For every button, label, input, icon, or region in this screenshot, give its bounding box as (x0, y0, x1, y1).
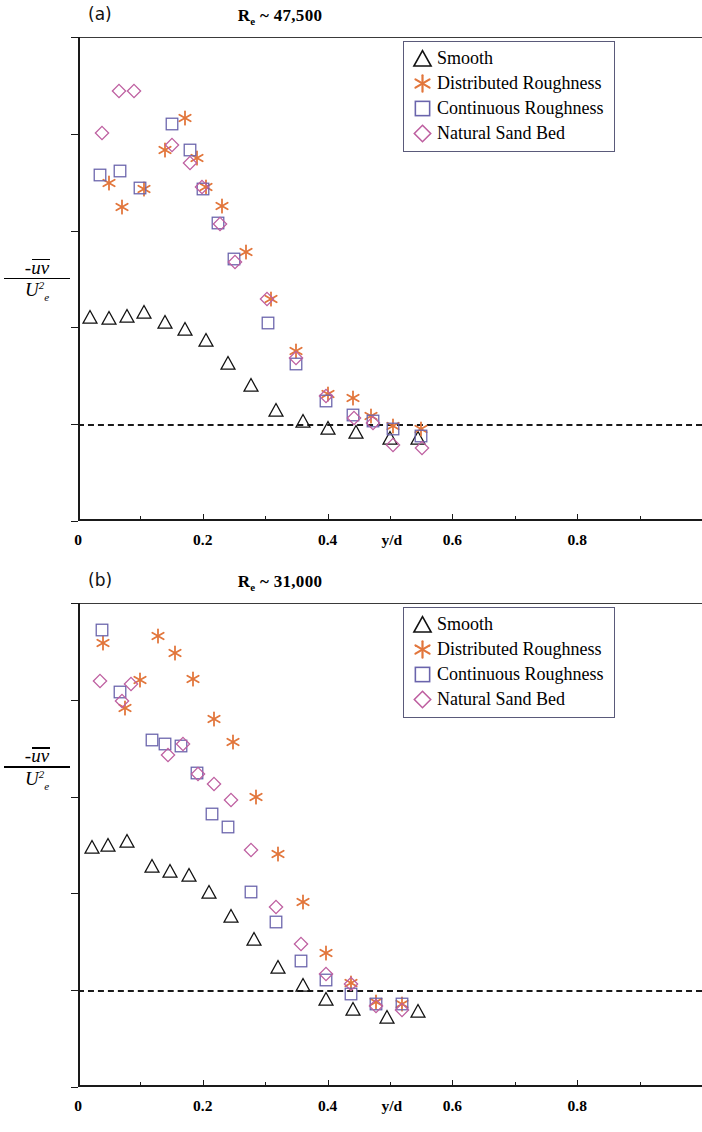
legend-item[interactable]: Smooth (412, 612, 604, 637)
y-axis-denominator-base: U (25, 280, 39, 301)
triangle-marker (135, 303, 152, 320)
title-rest: ~ 47,500 (255, 6, 322, 25)
square-marker (293, 953, 310, 970)
x-axis-tick (78, 1080, 79, 1087)
legend-item[interactable]: Natural Sand Bed (412, 687, 604, 712)
zero-reference-line (78, 990, 702, 992)
triangle-marker (294, 977, 311, 994)
triangle-marker (201, 884, 218, 901)
diamond-marker (243, 841, 260, 858)
x-axis-minor-tick (140, 516, 141, 521)
diamond-marker (364, 415, 381, 432)
asterisk-marker (294, 894, 311, 911)
triangle-marker (99, 837, 116, 854)
diamond-marker (163, 137, 180, 154)
asterisk-marker (206, 711, 223, 728)
y-axis-title: -uvU2e (4, 746, 70, 792)
triangle-marker (412, 614, 434, 636)
x-axis-minor-tick (140, 1082, 141, 1087)
diamond-marker (193, 179, 210, 196)
x-axis-minor-tick (265, 516, 266, 521)
triangle-marker (83, 838, 100, 855)
triangle-marker (177, 321, 194, 338)
axis-line-left (78, 603, 80, 1087)
legend-item[interactable]: Continuous Roughness (412, 662, 604, 687)
diamond-marker (288, 350, 305, 367)
triangle-marker (319, 420, 336, 437)
legend-item[interactable]: Natural Sand Bed (412, 121, 604, 146)
chart-legend: Smooth Distributed Roughness Continuous … (403, 607, 615, 718)
diamond-marker (212, 215, 229, 232)
legend-item[interactable]: Distributed Roughness (412, 71, 604, 96)
triangle-marker (245, 930, 262, 947)
asterisk-marker (224, 734, 241, 751)
triangle-marker (101, 309, 118, 326)
triangle-marker (197, 331, 214, 348)
diamond-marker (412, 689, 434, 711)
legend-item-label: Natural Sand Bed (434, 123, 565, 144)
diamond-marker (206, 776, 223, 793)
y-axis-denominator-base: U (25, 768, 39, 789)
x-axis-tick-label: 0.2 (193, 1097, 212, 1115)
title-prefix: R (238, 6, 251, 25)
y-axis-denominator-subscript: e (44, 780, 49, 792)
asterisk-marker (344, 390, 361, 407)
diamond-marker (227, 253, 244, 270)
y-axis-tick (71, 521, 78, 522)
x-axis-tick-label: 0.2 (193, 531, 212, 549)
triangle-marker (219, 355, 236, 372)
y-axis-tick (71, 1087, 78, 1088)
square-marker (385, 421, 402, 438)
x-axis-minor-tick (640, 1082, 641, 1087)
figure-root: (a)Re ~ 47,500-0.00100.0010.0020.0030.00… (0, 0, 702, 1132)
diamond-marker (91, 673, 108, 690)
asterisk-marker (412, 73, 434, 95)
y-axis-tick (71, 700, 78, 701)
asterisk-marker (185, 670, 202, 687)
x-axis-title: y/d (382, 531, 403, 549)
x-axis-tick-label: 0 (74, 531, 82, 549)
x-axis-tick (577, 514, 578, 521)
square-marker (243, 884, 260, 901)
square-marker (260, 314, 277, 331)
legend-item[interactable]: Distributed Roughness (412, 637, 604, 662)
y-axis-denominator: U2e (23, 769, 51, 792)
y-axis-denominator-exponent: 2 (39, 768, 45, 780)
title-rest: ~ 31,000 (255, 572, 322, 591)
diamond-marker (93, 124, 110, 141)
diamond-marker (394, 1001, 411, 1018)
y-axis-tick (71, 893, 78, 894)
x-axis-tick (577, 1080, 578, 1087)
asterisk-marker (247, 788, 264, 805)
y-axis-tick (71, 231, 78, 232)
axis-line-top (78, 37, 702, 38)
legend-item[interactable]: Continuous Roughness (412, 96, 604, 121)
chart-title: Re ~ 31,000 (0, 572, 560, 593)
asterisk-marker (318, 945, 335, 962)
legend-item[interactable]: Smooth (412, 46, 604, 71)
diamond-marker (174, 736, 191, 753)
x-axis-tick-label: 0.6 (443, 531, 462, 549)
asterisk-marker (113, 199, 130, 216)
x-axis-minor-tick (390, 516, 391, 521)
square-marker (204, 806, 221, 823)
triangle-marker (157, 313, 174, 330)
x-axis-tick (452, 1080, 453, 1087)
legend-item-label: Natural Sand Bed (434, 689, 565, 710)
x-axis-tick (78, 514, 79, 521)
diamond-marker (113, 692, 130, 709)
legend-item-label: Smooth (434, 48, 493, 69)
y-axis-denominator-subscript: e (44, 291, 49, 303)
triangle-marker (294, 413, 311, 430)
triangle-marker (344, 1000, 361, 1017)
square-marker (91, 167, 108, 184)
triangle-marker (118, 833, 135, 850)
x-axis-minor-tick (640, 516, 641, 521)
y-axis-numerator: -uv (23, 258, 51, 277)
triangle-marker (412, 48, 434, 70)
x-axis-tick-label: 0.4 (318, 1097, 337, 1115)
diamond-marker (189, 766, 206, 783)
x-axis-tick-label: 0 (74, 1097, 82, 1115)
triangle-marker (268, 401, 285, 418)
x-axis-title: y/d (382, 1097, 403, 1115)
